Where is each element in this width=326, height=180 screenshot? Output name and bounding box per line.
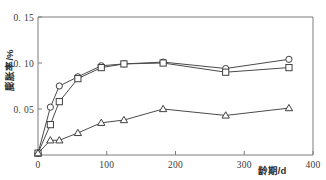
y-axis-ticks [38, 17, 42, 109]
data-point-square [223, 69, 229, 75]
y-axis-title: 膨胀率/% [4, 49, 15, 92]
data-series-triangle [34, 104, 292, 155]
chart-figure: 0100200300400 0. 050. 100. 15 龄期/d 膨胀率/% [0, 0, 326, 180]
x-tick-label: 400 [305, 160, 320, 170]
data-point-square [160, 60, 166, 66]
data-point-triangle [159, 105, 166, 111]
x-tick-label: 100 [99, 160, 114, 170]
data-point-circle [56, 83, 62, 89]
data-point-square [98, 65, 104, 71]
data-point-square [47, 122, 53, 128]
data-point-triangle [74, 129, 81, 135]
x-tick-label: 0 [35, 160, 40, 170]
data-series-group [34, 56, 292, 156]
expansion-rate-line-chart: 0100200300400 0. 050. 100. 15 龄期/d 膨胀率/% [0, 0, 326, 180]
x-tick-label: 200 [168, 160, 183, 170]
data-point-square [286, 65, 292, 71]
data-point-circle [47, 104, 53, 110]
series-line-triangle [38, 108, 289, 153]
data-point-triangle [47, 137, 54, 143]
data-point-triangle [285, 104, 292, 110]
data-point-circle [286, 56, 292, 62]
x-axis-ticks [38, 151, 313, 155]
x-axis-title: 龄期/d [258, 165, 287, 176]
y-tick-label: 0. 05 [14, 105, 35, 115]
y-axis-tick-labels: 0. 050. 100. 15 [14, 13, 35, 115]
data-point-square [121, 61, 127, 67]
x-tick-label: 300 [237, 160, 252, 170]
data-point-square [75, 76, 81, 82]
y-tick-label: 0. 10 [14, 59, 35, 69]
y-tick-label: 0. 15 [14, 13, 35, 23]
data-point-square [56, 99, 62, 105]
